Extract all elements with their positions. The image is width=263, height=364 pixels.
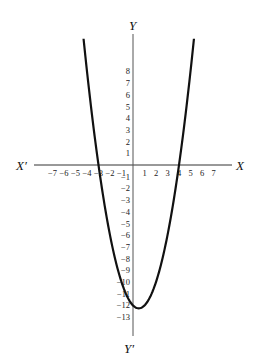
- x-tick-label: 2: [154, 168, 158, 178]
- y-tick-label: 7: [126, 78, 130, 88]
- tick-labels: −7−6−5−4−3−2−1123456787654321−1−2−3−4−5−…: [48, 66, 216, 322]
- x-tick-label: 1: [142, 168, 146, 178]
- y-tick-label: −9: [121, 265, 130, 275]
- y-tick-label: −12: [117, 300, 130, 310]
- parabola-curve: [84, 39, 194, 309]
- x-tick-label: −4: [82, 168, 92, 178]
- x-tick-label: −6: [59, 168, 68, 178]
- y-tick-label: 8: [126, 66, 130, 76]
- x-tick-label: 3: [165, 168, 169, 178]
- x-tick-label: 5: [188, 168, 192, 178]
- y-tick-label: −13: [117, 312, 130, 322]
- y-prime-axis-label: Y′: [124, 341, 134, 356]
- y-tick-label: −7: [121, 242, 130, 252]
- y-tick-label: −3: [121, 195, 130, 205]
- x-prime-axis-label: X′: [15, 158, 27, 173]
- x-tick-label: 6: [200, 168, 204, 178]
- x-axis-label: X: [235, 158, 245, 173]
- y-tick-label: −5: [121, 219, 130, 229]
- x-tick-label: −2: [105, 168, 114, 178]
- y-tick-label: 5: [126, 102, 130, 112]
- y-tick-label: 2: [126, 137, 130, 147]
- y-tick-label: 1: [126, 148, 130, 158]
- y-tick-label: 4: [126, 113, 131, 123]
- parabola-chart: −7−6−5−4−3−2−1123456787654321−1−2−3−4−5−…: [0, 0, 263, 364]
- y-axis-label: Y: [129, 18, 138, 33]
- y-tick-label: 3: [126, 125, 130, 135]
- x-tick-label: −5: [71, 168, 80, 178]
- axes: [34, 34, 232, 336]
- y-tick-label: 6: [126, 90, 130, 100]
- y-tick-label: −1: [121, 172, 130, 182]
- y-tick-label: −8: [121, 254, 130, 264]
- x-tick-label: 7: [211, 168, 215, 178]
- y-tick-label: −6: [121, 230, 130, 240]
- x-tick-label: −7: [48, 168, 57, 178]
- y-tick-label: −4: [121, 207, 131, 217]
- y-tick-label: −2: [121, 183, 130, 193]
